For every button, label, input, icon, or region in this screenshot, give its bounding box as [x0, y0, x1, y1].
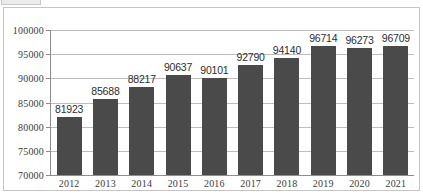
y-axis-tick-mark — [46, 175, 50, 176]
y-axis-tick-mark — [46, 78, 50, 79]
bar-value-label-2015: 90637 — [164, 61, 192, 73]
x-axis-tick-label-2020: 2020 — [349, 178, 370, 189]
bar-2020[interactable] — [347, 48, 372, 175]
y-axis-tick-label: 85000 — [18, 97, 44, 108]
bar-2019[interactable] — [311, 46, 336, 175]
x-axis-tick-label-2019: 2019 — [313, 178, 334, 189]
bar-value-label-2013: 85688 — [91, 85, 119, 97]
gridline — [51, 175, 414, 176]
bar-value-label-2017: 92790 — [237, 51, 265, 63]
y-axis-tick-mark — [46, 54, 50, 55]
screenshot-root: 700007500080000850009000095000100000 819… — [0, 0, 423, 195]
bar-value-label-2012: 81923 — [55, 103, 83, 115]
x-axis-tick-label-2013: 2013 — [95, 178, 116, 189]
y-axis-tick-label: 80000 — [18, 121, 44, 132]
chart-frame: 700007500080000850009000095000100000 819… — [3, 7, 420, 191]
bar-value-label-2014: 88217 — [128, 73, 156, 85]
bar-2016[interactable] — [202, 78, 227, 175]
y-axis-tick-label: 75000 — [18, 145, 44, 156]
x-axis-tick-label-2016: 2016 — [204, 178, 225, 189]
bar-value-label-2019: 96714 — [309, 32, 337, 44]
x-axis-tick-label-2012: 2012 — [59, 178, 80, 189]
toolbar-fragment[interactable] — [1, 0, 41, 5]
bar-2018[interactable] — [274, 58, 299, 175]
gridline — [51, 30, 414, 31]
bar-2015[interactable] — [166, 75, 191, 175]
y-axis-tick-mark — [46, 151, 50, 152]
x-axis-tick-label-2021: 2021 — [385, 178, 406, 189]
bar-value-label-2021: 96709 — [382, 32, 410, 44]
x-axis-tick-label-2018: 2018 — [277, 178, 298, 189]
y-axis-tick-label: 95000 — [18, 49, 44, 60]
y-axis-tick-mark — [46, 103, 50, 104]
bar-value-label-2018: 94140 — [273, 44, 301, 56]
bar-2014[interactable] — [129, 87, 154, 175]
y-axis-tick-mark — [46, 127, 50, 128]
bar-2012[interactable] — [57, 117, 82, 175]
bar-value-label-2020: 96273 — [345, 34, 373, 46]
x-axis-tick-label-2015: 2015 — [168, 178, 189, 189]
bar-value-label-2016: 90101 — [200, 64, 228, 76]
bar-2021[interactable] — [383, 46, 408, 175]
bar-2017[interactable] — [238, 65, 263, 175]
x-axis-tick-label-2017: 2017 — [240, 178, 261, 189]
bar-2013[interactable] — [93, 99, 118, 175]
y-axis-tick-mark — [46, 30, 50, 31]
x-axis-tick-label-2014: 2014 — [131, 178, 152, 189]
y-axis-tick-label: 70000 — [18, 170, 44, 181]
y-axis-tick-label: 90000 — [18, 73, 44, 84]
y-axis-tick-label: 100000 — [13, 25, 44, 36]
plot-area — [51, 30, 414, 175]
